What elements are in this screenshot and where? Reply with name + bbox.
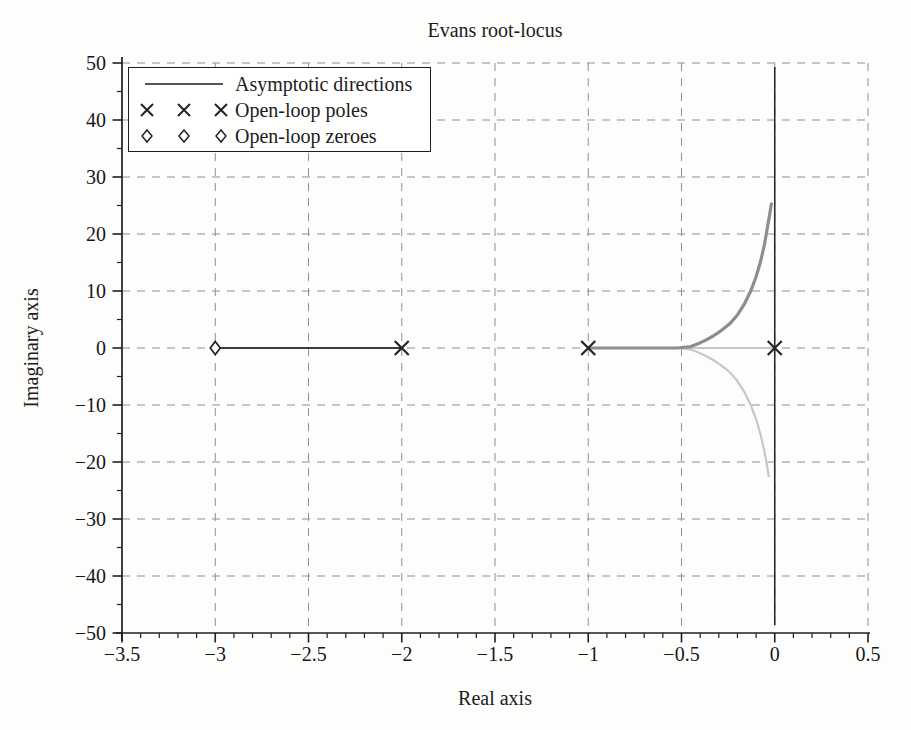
svg-text:−1: −1 [578,643,599,665]
svg-text:0: 0 [770,643,780,665]
legend-item-open-loop-zeroes: Open-loop zeroes [129,123,430,149]
svg-text:−2.5: −2.5 [290,643,326,665]
svg-text:−10: −10 [75,394,106,416]
legend-label: Asymptotic directions [235,74,412,94]
svg-text:50: 50 [86,52,106,74]
legend-item-open-loop-poles: Open-loop poles [129,97,430,123]
svg-text:−1.5: −1.5 [477,643,513,665]
svg-text:20: 20 [86,223,106,245]
svg-text:0.5: 0.5 [856,643,881,665]
svg-text:−20: −20 [75,451,106,473]
svg-text:−3.5: −3.5 [104,643,140,665]
legend-box: Asymptotic directions Open-loop poles [128,67,431,152]
svg-text:−30: −30 [75,508,106,530]
svg-text:−0.5: −0.5 [663,643,699,665]
svg-text:−50: −50 [75,622,106,644]
svg-text:0: 0 [96,337,106,359]
root-locus-figure: −3.5−3−2.5−2−1.5−1−0.500.550403020100−10… [0,0,911,730]
svg-text:10: 10 [86,280,106,302]
svg-text:−40: −40 [75,565,106,587]
y-axis-label: Imaginary axis [20,288,43,407]
svg-text:−3: −3 [205,643,226,665]
legend-line-sample-icon [129,71,229,97]
svg-text:40: 40 [86,109,106,131]
svg-text:−2: −2 [391,643,412,665]
svg-text:30: 30 [86,166,106,188]
diamond-marker-icon [129,123,229,149]
cross-marker-icon [129,97,229,123]
legend-label: Open-loop zeroes [235,126,377,146]
legend-item-asymptotic-directions: Asymptotic directions [129,71,430,97]
x-axis-label: Real axis [122,687,868,710]
chart-title: Evans root-locus [122,19,868,42]
legend-label: Open-loop poles [235,100,368,120]
